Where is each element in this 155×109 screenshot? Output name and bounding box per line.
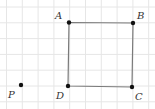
point-c xyxy=(130,85,134,89)
label-p: P xyxy=(8,90,15,100)
label-b: B xyxy=(137,11,144,21)
point-a xyxy=(67,20,71,24)
point-p xyxy=(19,83,23,87)
grid-lines xyxy=(0,0,155,109)
point-b xyxy=(131,21,135,25)
label-d: D xyxy=(56,91,64,101)
point-d xyxy=(66,84,70,88)
label-c: C xyxy=(135,92,143,102)
grid-diagram xyxy=(0,0,155,109)
label-a: A xyxy=(55,11,62,21)
